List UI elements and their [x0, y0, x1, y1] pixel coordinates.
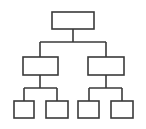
org-chart-icon [0, 0, 146, 129]
node-leaf-3 [78, 101, 99, 118]
node-child-right [88, 57, 124, 75]
node-leaf-1 [14, 101, 34, 118]
node-child-left [23, 57, 58, 75]
node-leaf-4 [111, 101, 133, 118]
node-leaf-2 [46, 101, 68, 118]
node-root [52, 12, 94, 29]
